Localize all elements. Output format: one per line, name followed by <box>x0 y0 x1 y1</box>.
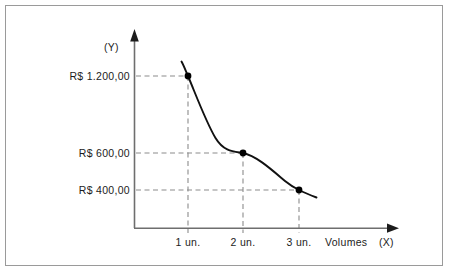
data-point-2un <box>240 150 247 157</box>
y-axis-arrow-icon <box>130 29 139 42</box>
cost-curve <box>182 62 317 198</box>
x-axis-title-label: Volumes <box>325 236 367 248</box>
chart-plot-area <box>0 0 451 276</box>
chart-screenshot: (Y) R$ 1.200,00 R$ 600,00 R$ 400,00 1 un… <box>0 0 451 276</box>
data-point-3un <box>296 187 303 194</box>
y-axis-tick-label-400: R$ 400,00 <box>52 184 130 196</box>
x-axis-tick-label-1un: 1 un. <box>163 236 213 248</box>
x-axis-tick-label-3un: 3 un. <box>274 236 324 248</box>
x-axis-tick-label-2un: 2 un. <box>218 236 268 248</box>
x-axis-arrow-icon <box>387 224 399 233</box>
y-axis-tick-label-1200: R$ 1.200,00 <box>52 70 130 82</box>
data-point-1un <box>185 73 192 80</box>
x-axis-symbol-label: (X) <box>379 236 394 248</box>
y-axis-tick-label-600: R$ 600,00 <box>52 147 130 159</box>
y-axis-symbol-label: (Y) <box>104 41 119 53</box>
